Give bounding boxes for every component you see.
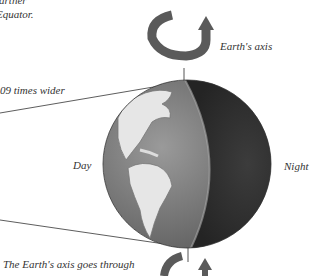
night-label: Night	[284, 160, 308, 172]
earth-axis-label: Earth's axis	[220, 40, 272, 52]
globe	[103, 78, 290, 250]
day-label: Day	[73, 159, 91, 171]
top-left-text-line2: Equator.	[0, 8, 34, 20]
width-note: 09 times wider	[0, 84, 65, 96]
top-left-text-line1: farther	[0, 0, 27, 6]
earth-diagram	[0, 0, 323, 276]
bottom-caption: The Earth's axis goes through	[3, 258, 135, 270]
rotation-arrow-top-icon	[152, 15, 214, 56]
